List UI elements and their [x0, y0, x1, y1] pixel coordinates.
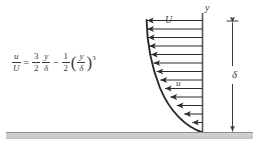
boundary-layer-thickness-label: δ	[232, 68, 237, 80]
profile-drawing	[0, 0, 259, 153]
free-stream-velocity-label: U	[165, 14, 172, 25]
velocity-profile-curve	[147, 20, 203, 133]
ground-surface	[6, 132, 253, 139]
local-velocity-label: u	[176, 78, 181, 88]
boundary-layer-figure: u U = 3 2 y δ − 1 2 ( y δ ) 3	[0, 0, 259, 153]
y-axis-label: y	[205, 2, 209, 13]
velocity-arrow-group	[147, 21, 203, 123]
